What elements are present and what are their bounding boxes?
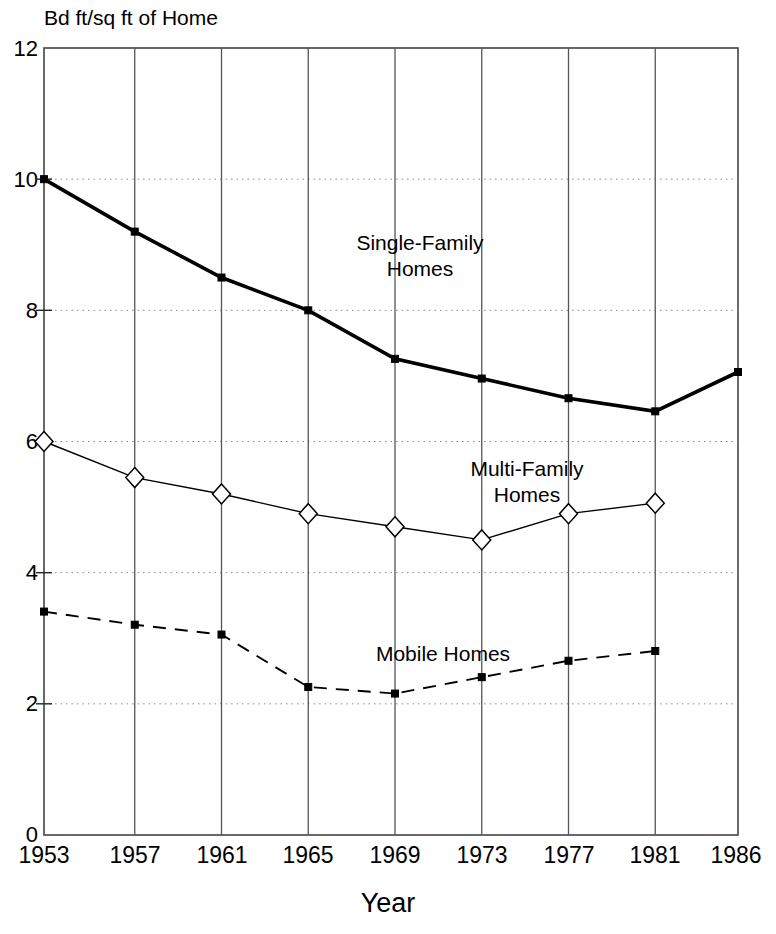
x-tick-1953: 1953	[4, 843, 84, 867]
annotation-single-family-line2: Homes	[387, 257, 454, 280]
x-tick-1986: 1986	[696, 843, 776, 867]
x-tick-1969: 1969	[355, 843, 435, 867]
annotation-multi-family-line2: Homes	[494, 483, 561, 506]
x-axis-title: Year	[0, 888, 776, 918]
annotation-single-family-line1: Single-Family	[356, 231, 483, 254]
x-tick-1981: 1981	[615, 843, 695, 867]
annotation-single-family: Single-Family Homes	[335, 230, 505, 282]
annotation-multi-family-line1: Multi-Family	[470, 457, 583, 480]
x-tick-1961: 1961	[182, 843, 262, 867]
x-tick-1965: 1965	[268, 843, 348, 867]
chart-container: Bd ft/sq ft of Home 12 10 8 6 4 2 0	[0, 0, 776, 934]
x-tick-1957: 1957	[95, 843, 175, 867]
annotation-mobile-homes: Mobile Homes	[358, 641, 528, 667]
plot-area	[0, 0, 776, 934]
x-tick-1977: 1977	[529, 843, 609, 867]
annotation-multi-family: Multi-Family Homes	[452, 456, 602, 508]
x-tick-1973: 1973	[442, 843, 522, 867]
